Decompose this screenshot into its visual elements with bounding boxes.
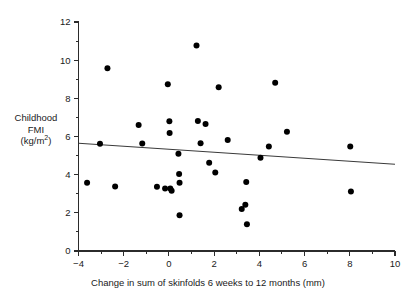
data-point bbox=[243, 179, 249, 185]
data-point bbox=[203, 121, 209, 127]
y-axis-tick-label: 12 bbox=[60, 16, 71, 27]
data-point bbox=[206, 160, 212, 166]
datapoints-group bbox=[84, 42, 354, 227]
data-point bbox=[177, 180, 183, 186]
y-axis-label: Childhood FMI (kg/m2) bbox=[5, 112, 67, 147]
x-axis-tick-label: 4 bbox=[257, 258, 262, 269]
data-point bbox=[177, 212, 183, 218]
x-axis-tick-label: −2 bbox=[118, 258, 129, 269]
x-axis-tick-label: −4 bbox=[73, 258, 84, 269]
data-point bbox=[242, 202, 248, 208]
x-axis-tick-label: 0 bbox=[166, 258, 171, 269]
scatter-plot-figure: −4−20246810024681012 Childhood FMI (kg/m… bbox=[0, 0, 416, 301]
data-point bbox=[348, 188, 354, 194]
data-point bbox=[154, 184, 160, 190]
data-point bbox=[167, 130, 173, 136]
y-axis-tick-label: 2 bbox=[65, 207, 70, 218]
y-axis-label-line-3: (kg/m2) bbox=[5, 135, 67, 147]
data-point bbox=[136, 122, 142, 128]
x-axis-tick-label: 8 bbox=[347, 258, 352, 269]
axes-group bbox=[74, 22, 396, 256]
data-point bbox=[166, 118, 172, 124]
data-point bbox=[266, 144, 272, 150]
data-point bbox=[198, 140, 204, 146]
data-point bbox=[212, 169, 218, 175]
data-point bbox=[194, 42, 200, 48]
data-point bbox=[112, 183, 118, 189]
data-point bbox=[162, 185, 168, 191]
data-point bbox=[104, 65, 110, 71]
data-point bbox=[175, 151, 181, 157]
data-point bbox=[97, 141, 103, 147]
x-axis-tick-label: 2 bbox=[211, 258, 216, 269]
plot-canvas: −4−20246810024681012 bbox=[0, 0, 416, 301]
data-point bbox=[165, 81, 171, 87]
y-axis-tick-label: 4 bbox=[65, 169, 70, 180]
y-axis-tick-label: 0 bbox=[65, 245, 70, 256]
data-point bbox=[272, 80, 278, 86]
data-point bbox=[257, 155, 263, 161]
x-axis-tick-label: 10 bbox=[390, 258, 401, 269]
y-axis-label-line-2: FMI bbox=[5, 124, 67, 136]
data-point bbox=[244, 221, 250, 227]
x-axis-tick-label: 6 bbox=[302, 258, 307, 269]
x-axis-label: Change in sum of skinfolds 6 weeks to 12… bbox=[0, 277, 416, 288]
y-axis-tick-label: 8 bbox=[65, 93, 70, 104]
data-point bbox=[139, 141, 145, 147]
y-axis-label-line-1: Childhood bbox=[5, 112, 67, 124]
y-axis-tick-label: 10 bbox=[60, 55, 71, 66]
data-point bbox=[84, 180, 90, 186]
data-point bbox=[195, 118, 201, 124]
data-point bbox=[169, 188, 175, 194]
data-point bbox=[284, 129, 290, 135]
data-point bbox=[347, 144, 353, 150]
data-point bbox=[216, 84, 222, 90]
tick-labels-group: −4−20246810024681012 bbox=[60, 16, 400, 269]
data-point bbox=[176, 171, 182, 177]
data-point bbox=[225, 137, 231, 143]
